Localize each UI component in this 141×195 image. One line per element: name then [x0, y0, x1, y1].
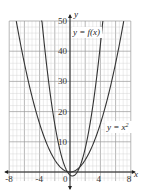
y-tick-label: 30: [58, 76, 68, 86]
y-arrow-up-icon: [68, 14, 72, 18]
x-tick-label: 0: [63, 174, 68, 184]
x-tick-label: 8: [127, 174, 132, 184]
x-tick-label: 4: [96, 174, 101, 184]
x-tick-label: -4: [36, 174, 44, 184]
y-arrow-down-icon: [68, 186, 72, 190]
y-tick-label: 10: [58, 137, 68, 147]
x2-curve-label: y = x2: [106, 122, 129, 132]
fx-curve-label: y = f(x): [72, 27, 100, 37]
x-tick-label: -8: [5, 174, 13, 184]
x-axis-label: x: [133, 169, 138, 179]
y-tick-label: 40: [58, 46, 68, 56]
graph-chart: -8-40481020304050 y x y = f(x) y = x2: [0, 0, 141, 195]
y-tick-label: 50: [58, 16, 68, 26]
axes: [4, 14, 136, 190]
y-axis-label: y: [73, 9, 78, 19]
y-tick-label: 20: [58, 107, 68, 117]
